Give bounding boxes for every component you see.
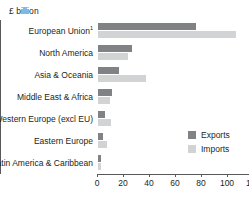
category-label: European Union1 [0, 20, 93, 42]
chart-unit-title: £ billion [9, 6, 39, 16]
x-axis-ticks: 020406080100120 [97, 174, 249, 200]
x-tick-mark [201, 174, 202, 177]
bar-exports [98, 111, 105, 118]
x-tick-mark [123, 174, 124, 177]
legend-label-exports: Exports [201, 130, 230, 140]
chart-category-row: Asia & Oceania [97, 64, 249, 86]
chart-category-row: European Union1 [97, 20, 249, 42]
category-label: Asia & Oceania [0, 64, 93, 86]
bar-exports [98, 133, 103, 140]
chart-category-row: Middle East & Africa [97, 86, 249, 108]
bar-exports [98, 23, 196, 30]
category-footnote-marker: 1 [90, 25, 93, 31]
x-tick-label: 20 [118, 178, 127, 188]
bar-imports [98, 119, 111, 126]
x-tick-mark [97, 174, 98, 177]
chart-category-row: Western Europe (excl EU) [97, 108, 249, 130]
bar-imports [98, 31, 236, 38]
x-tick-label: 100 [220, 178, 234, 188]
bar-exports [98, 45, 132, 52]
legend-item-imports: Imports [188, 142, 230, 156]
bar-imports [98, 53, 128, 60]
x-tick-label: 60 [170, 178, 179, 188]
category-label: Latin America & Caribbean [0, 152, 93, 174]
x-tick-mark [175, 174, 176, 177]
x-tick-mark [227, 174, 228, 177]
x-tick-label: 80 [196, 178, 205, 188]
x-tick-mark [149, 174, 150, 177]
category-label: Western Europe (excl EU) [0, 108, 93, 130]
bar-exports [98, 67, 119, 74]
x-tick-label: 120 [246, 178, 249, 188]
x-tick-label: 0 [95, 178, 100, 188]
bar-exports [98, 155, 101, 162]
bar-imports [98, 75, 146, 82]
category-label: North America [0, 42, 93, 64]
legend-label-imports: Imports [201, 144, 229, 154]
bar-imports [98, 141, 107, 148]
chart-legend: Exports Imports [188, 128, 230, 156]
chart-category-row: North America [97, 42, 249, 64]
category-label: Eastern Europe [0, 130, 93, 152]
bar-imports [98, 163, 101, 170]
legend-swatch-exports [188, 131, 196, 139]
legend-item-exports: Exports [188, 128, 230, 142]
bar-chart: £ billion European Union1North AmericaAs… [0, 0, 249, 201]
legend-swatch-imports [188, 145, 196, 153]
category-label: Middle East & Africa [0, 86, 93, 108]
x-tick-label: 40 [144, 178, 153, 188]
bar-imports [98, 97, 110, 104]
bar-exports [98, 89, 112, 96]
